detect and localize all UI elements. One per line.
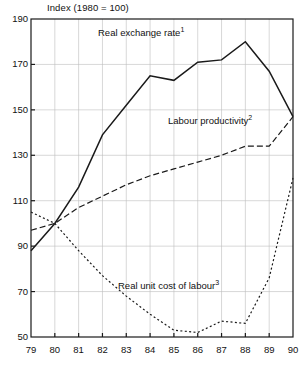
x-axis-tick-label: 88 <box>236 345 254 355</box>
series-label-text: Real exchange rate <box>98 27 180 38</box>
x-axis-tick-label: 86 <box>189 345 207 355</box>
series-label-text: Labour productivity <box>168 115 248 126</box>
x-axis-tick-label: 87 <box>213 345 231 355</box>
x-axis-tick-label: 80 <box>46 345 64 355</box>
x-axis-tick-label: 82 <box>93 345 111 355</box>
x-axis-tick-label: 84 <box>141 345 159 355</box>
chart-plot-area <box>0 0 303 368</box>
series-label-labour-productivity: Labour productivity2 <box>168 115 252 126</box>
x-axis-tick-label: 89 <box>260 345 278 355</box>
series-label-real-exchange-rate: Real exchange rate1 <box>98 27 184 38</box>
x-axis-tick-label: 79 <box>22 345 40 355</box>
x-axis-tick-label: 90 <box>284 345 302 355</box>
footnote-marker: 2 <box>248 114 252 121</box>
series-label-text: Real unit cost of labour <box>118 280 215 291</box>
chart-container: Index (1980 = 100) 507090110130150170190… <box>0 0 303 368</box>
series-line-labour-productivity <box>31 117 293 231</box>
footnote-marker: 3 <box>215 279 219 286</box>
x-axis-tick-label: 83 <box>117 345 135 355</box>
series-label-real-unit-cost-of-labour: Real unit cost of labour3 <box>118 280 219 291</box>
x-axis-tick-label: 81 <box>70 345 88 355</box>
footnote-marker: 1 <box>180 26 184 33</box>
x-axis-tick-label: 85 <box>165 345 183 355</box>
